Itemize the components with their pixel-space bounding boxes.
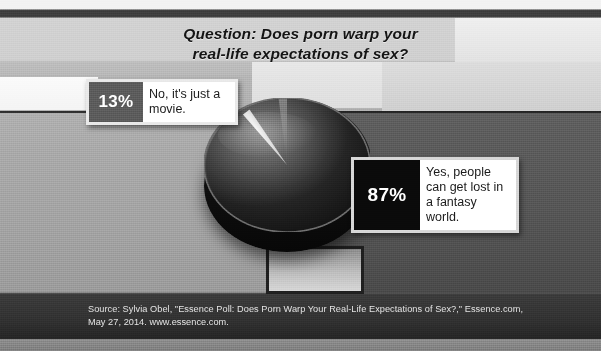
background-band-left-white xyxy=(0,77,98,110)
background-band-right-light xyxy=(382,62,601,111)
infographic-canvas: Question: Does porn warp your real-life … xyxy=(0,0,601,351)
source-citation: Source: Sylvia Obel, "Essence Poll: Does… xyxy=(88,303,540,329)
callout-yes-label: Yes, people can get lost in a fantasy wo… xyxy=(420,160,516,230)
callout-no-percent: 13% xyxy=(89,82,143,122)
callout-no-13[interactable]: 13% No, it's just a movie. xyxy=(86,79,238,125)
callout-no-label: No, it's just a movie. xyxy=(143,82,235,122)
callout-yes-87[interactable]: 87% Yes, people can get lost in a fantas… xyxy=(351,157,519,233)
source-line-2: May 27, 2014. www.essence.com. xyxy=(88,316,540,329)
page-title: Question: Does porn warp your real-life … xyxy=(0,24,601,64)
title-line-2: real-life expectations of sex? xyxy=(0,44,601,64)
title-line-1: Question: Does porn warp your xyxy=(0,24,601,44)
footer-bottom-strip xyxy=(0,339,601,351)
callout-yes-percent: 87% xyxy=(354,160,420,230)
source-line-1: Source: Sylvia Obel, "Essence Poll: Does… xyxy=(88,303,540,316)
